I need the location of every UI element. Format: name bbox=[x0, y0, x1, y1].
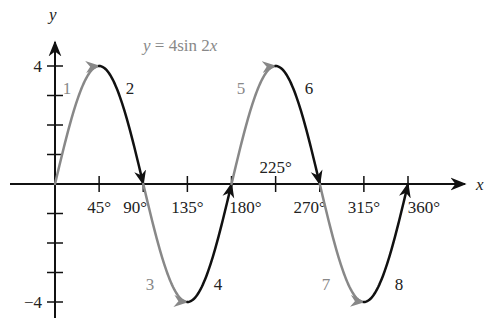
y-tick-label: 4 bbox=[34, 57, 43, 76]
y-axis-label: y bbox=[47, 5, 57, 24]
y-tick-label: −4 bbox=[24, 293, 43, 312]
x-tick-label: 315° bbox=[348, 198, 380, 217]
segment-label-3: 3 bbox=[146, 275, 155, 294]
x-tick-label: 90° bbox=[123, 198, 147, 217]
x-tick-label: 180° bbox=[229, 198, 261, 217]
segment-label-8: 8 bbox=[395, 275, 404, 294]
sine-chart: 45°90°135°180°225°270°315°360° 4−4 12345… bbox=[0, 0, 493, 335]
segment-label-6: 6 bbox=[305, 79, 314, 98]
equation-title: y = 4sin 2x bbox=[141, 36, 218, 55]
x-tick-label: 225° bbox=[259, 158, 291, 177]
segment-label-5: 5 bbox=[237, 79, 246, 98]
x-tick-label: 135° bbox=[171, 198, 203, 217]
segment-label-7: 7 bbox=[322, 275, 331, 294]
curve-segment-2 bbox=[99, 66, 143, 184]
x-tick-label: 45° bbox=[87, 198, 111, 217]
x-tick-label: 270° bbox=[294, 198, 326, 217]
segment-label-4: 4 bbox=[214, 275, 223, 294]
segment-label-1: 1 bbox=[63, 79, 72, 98]
segment-label-2: 2 bbox=[126, 79, 135, 98]
x-tick-label: 360° bbox=[408, 198, 440, 217]
x-axis-label: x bbox=[475, 175, 484, 194]
segment-labels: 12345678 bbox=[63, 79, 404, 294]
